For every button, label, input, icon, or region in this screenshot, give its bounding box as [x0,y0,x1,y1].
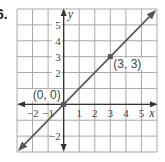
point-label: (0, 0) [33,88,61,102]
x-tick-label: 1 [76,107,82,119]
y-tick-label: 3 [55,51,61,63]
y-tick-label: 2 [55,67,61,79]
x-tick-label: 2 [92,107,98,119]
data-point [108,54,113,59]
x-tick-label: 4 [123,107,129,119]
x-tick-label: −1 [42,107,54,119]
y-tick-label: 4 [55,35,61,47]
data-line-y-equals-x [19,11,154,149]
x-tick-label: 3 [108,107,114,119]
y-tick-label: −2 [49,130,61,142]
y-axis-label: y [67,7,74,21]
x-tick-label: −2 [27,107,39,119]
point-label: (3, 3) [113,57,141,71]
y-tick-label: 5 [55,19,61,31]
coordinate-graph: −2−112345−22345xy(0, 0)(3, 3) [0,0,165,162]
data-point [61,102,66,107]
x-tick-label: 5 [139,107,145,119]
series [19,11,154,149]
x-axis-label: x [148,106,155,120]
